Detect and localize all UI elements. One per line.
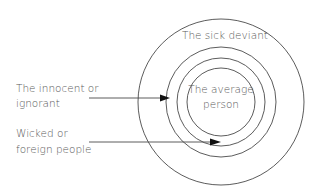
- innocent-label-line1: The innocent or: [16, 81, 99, 96]
- wicked-label-line1: Wicked or: [16, 126, 68, 141]
- innocent-arrowhead-icon: [160, 95, 170, 102]
- sick-deviant-label: The sick deviant: [182, 28, 262, 43]
- wicked-label-line2: foreign people: [16, 142, 91, 157]
- wicked-arrowhead-icon: [210, 139, 221, 146]
- average-person-label-line1: The average: [186, 82, 256, 97]
- average-person-label-line2: person: [186, 97, 256, 112]
- innocent-label-line2: ignorant: [16, 96, 60, 111]
